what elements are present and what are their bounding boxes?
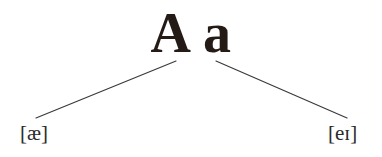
pronunciation-diagram: A a [æ] [eɪ] <box>0 0 382 157</box>
ipa-label-left: [æ] <box>20 123 48 144</box>
branch-line-right <box>216 61 347 118</box>
letter-node-aa: A a <box>0 5 382 61</box>
branch-line-left <box>36 61 176 118</box>
ipa-label-right: [eɪ] <box>328 123 357 144</box>
